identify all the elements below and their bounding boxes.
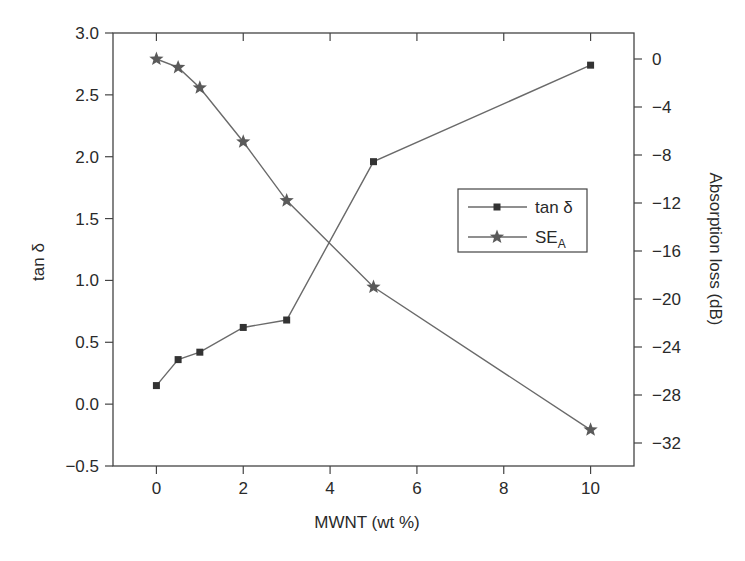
y2-tick-label: −28 — [652, 386, 681, 405]
y2-tick-label: −12 — [652, 194, 681, 213]
dual-axis-line-chart: 0246810 −0.50.00.51.01.52.02.53.0 0−4−8−… — [0, 0, 745, 561]
y2-tick-label: −8 — [652, 146, 671, 165]
x-tick-label: 2 — [239, 479, 248, 498]
y2-tick-label: −32 — [652, 434, 681, 453]
y2-tick-label: −20 — [652, 290, 681, 309]
square-marker-icon — [587, 62, 594, 69]
y2-tick-label: −16 — [652, 242, 681, 261]
y-tick-label: 0.5 — [75, 333, 99, 352]
square-marker-icon — [196, 349, 203, 356]
y-tick-label: 1.0 — [75, 271, 99, 290]
y-tick-label: 3.0 — [75, 24, 99, 43]
x-tick-label: 6 — [412, 479, 421, 498]
y-tick-label: 0.0 — [75, 395, 99, 414]
y-tick-label: 2.5 — [75, 86, 99, 105]
x-tick-label: 8 — [499, 479, 508, 498]
y-axis-right-ticks: 0−4−8−12−16−20−24−28−32 — [634, 50, 681, 453]
x-axis-title: MWNT (wt %) — [314, 513, 419, 532]
chart-container: 0246810 −0.50.00.51.01.52.02.53.0 0−4−8−… — [0, 0, 745, 561]
y-tick-label: 1.5 — [75, 210, 99, 229]
y-tick-label: −0.5 — [65, 457, 99, 476]
y-axis-right-title: Absorption loss (dB) — [706, 172, 725, 325]
x-tick-label: 0 — [152, 479, 161, 498]
square-marker-icon — [494, 204, 501, 211]
y-axis-left-title: tan δ — [29, 243, 48, 281]
square-marker-icon — [370, 158, 377, 165]
x-tick-label: 10 — [581, 479, 600, 498]
y2-tick-label: −24 — [652, 338, 681, 357]
x-axis-ticks: 0246810 — [152, 33, 600, 498]
square-marker-icon — [175, 356, 182, 363]
y-tick-label: 2.0 — [75, 148, 99, 167]
x-tick-label: 4 — [325, 479, 334, 498]
star-marker-icon — [149, 52, 163, 66]
y2-tick-label: −4 — [652, 98, 671, 117]
star-marker-icon — [583, 422, 597, 436]
y-axis-left-ticks: −0.50.00.51.01.52.02.53.0 — [65, 24, 113, 476]
legend-label-tan-delta: tan δ — [535, 198, 573, 217]
legend: tan δ SEA — [458, 189, 587, 252]
square-marker-icon — [240, 324, 247, 331]
square-marker-icon — [283, 317, 290, 324]
y2-tick-label: 0 — [652, 50, 661, 69]
square-marker-icon — [153, 382, 160, 389]
